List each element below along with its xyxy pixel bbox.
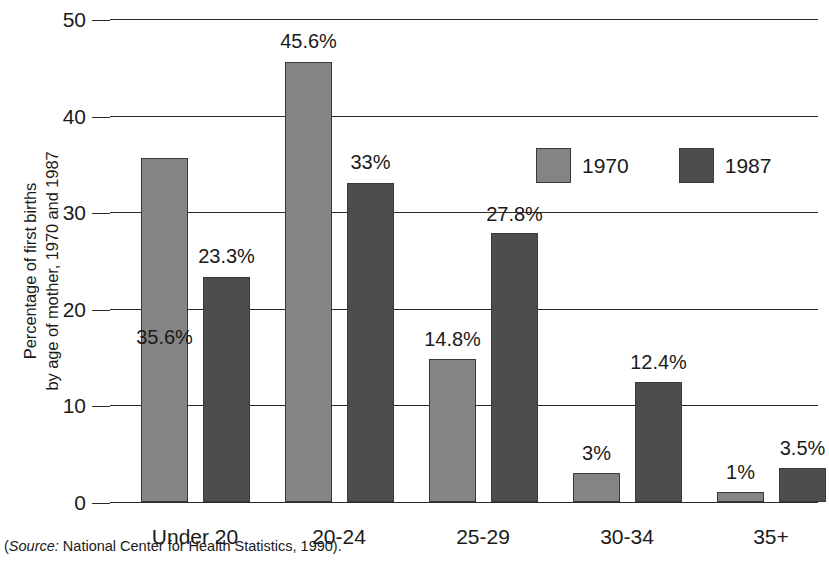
- gridline-30: 30: [110, 212, 818, 213]
- legend-label-1970: 1970: [582, 154, 629, 178]
- y-tick-label-30: 30: [63, 201, 86, 225]
- bar-1970-20-24: [285, 62, 332, 503]
- y-axis-title-line-2: by age of mother, 1970 and 1987: [42, 151, 64, 390]
- gridline-40: 40: [110, 116, 818, 117]
- legend-swatch-1987-icon: [679, 148, 714, 183]
- bar-label-1987-30-34: 12.4%: [630, 351, 687, 374]
- x-category-label-35-plus: 35+: [753, 525, 789, 549]
- bar-label-1970-20-24: 45.6%: [280, 30, 337, 53]
- tick-mark-0: [92, 503, 110, 504]
- bar-label-1987-under-20: 23.3%: [198, 245, 255, 268]
- tick-mark-50: [92, 20, 110, 21]
- y-tick-label-50: 50: [63, 8, 86, 32]
- bar-label-1970-25-29: 14.8%: [424, 328, 481, 351]
- x-category-label-30-34: 30-34: [600, 525, 654, 549]
- gridline-50: 50: [110, 19, 818, 20]
- tick-mark-20: [92, 310, 110, 311]
- y-tick-label-10: 10: [63, 394, 86, 418]
- source-note: (Source: National Center for Health Stat…: [4, 538, 342, 554]
- bar-chart-figure: Percentage of first births by age of mot…: [0, 0, 829, 563]
- y-tick-label-40: 40: [63, 105, 86, 129]
- bar-1987-30-34: [635, 382, 682, 502]
- source-note-text: National Center for Health Statistics, 1…: [59, 538, 342, 554]
- bar-1970-35-plus: [717, 492, 764, 502]
- bar-label-1970-30-34: 3%: [582, 442, 611, 465]
- bar-1987-20-24: [347, 183, 394, 502]
- bar-1987-35-plus: [779, 468, 826, 502]
- bar-label-1987-20-24: 33%: [350, 151, 390, 174]
- bar-1987-25-29: [491, 233, 538, 502]
- y-axis-title: Percentage of first births by age of mot…: [19, 61, 65, 481]
- bar-label-1987-25-29: 27.8%: [486, 203, 543, 226]
- bar-1987-under-20: [203, 277, 250, 502]
- legend: 1970 1987: [536, 148, 771, 183]
- bar-1970-30-34: [573, 473, 620, 502]
- bar-label-1987-35-plus: 3.5%: [780, 437, 826, 460]
- legend-entry-1970: 1970: [536, 148, 629, 183]
- bar-1970-25-29: [429, 359, 476, 502]
- legend-entry-1987: 1987: [679, 148, 772, 183]
- plot-area: 50 40 30 20 10 0 35.6% 23.3% 45.6%: [110, 19, 818, 502]
- legend-swatch-1970-icon: [536, 148, 571, 183]
- tick-mark-30: [92, 213, 110, 214]
- y-tick-label-0: 0: [74, 491, 86, 515]
- source-note-label: Source:: [9, 538, 59, 554]
- y-tick-label-20: 20: [63, 298, 86, 322]
- bar-label-1970-under-20: 35.6%: [136, 326, 193, 349]
- tick-mark-40: [92, 117, 110, 118]
- legend-label-1987: 1987: [725, 154, 772, 178]
- x-category-label-25-29: 25-29: [456, 525, 510, 549]
- tick-mark-10: [92, 406, 110, 407]
- bar-label-1970-35-plus: 1%: [726, 461, 755, 484]
- y-axis-title-line-1: Percentage of first births: [20, 183, 42, 359]
- gridline-0-baseline: 0: [110, 502, 818, 503]
